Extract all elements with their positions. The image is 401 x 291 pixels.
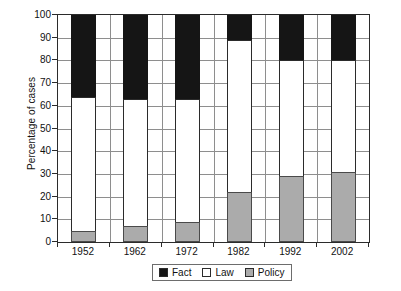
y-tick-mark [52,105,57,106]
y-tick-label: 0 [21,236,51,247]
y-tick-mark [52,218,57,219]
bar-segment-law [123,99,148,226]
chart-legend: Fact Law Policy [152,264,292,281]
x-tick-mark [213,243,214,247]
y-tick-label: 90 [21,31,51,42]
bar-stack [331,15,356,242]
x-tick-label: 2002 [312,246,372,257]
gridline-vertical [162,15,163,242]
bar-segment-policy [175,222,200,242]
bar-segment-law [331,60,356,171]
y-tick-mark [52,59,57,60]
bar-segment-fact [279,15,304,60]
plot-area [57,14,370,243]
bar-segment-fact [331,15,356,60]
bar-segment-policy [331,172,356,242]
legend-label-law: Law [215,267,233,278]
y-tick-mark [52,196,57,197]
chart-figure: Percentage of cases 01020304050607080901… [0,0,401,291]
plot-inner [58,15,369,242]
gridline-vertical [214,15,215,242]
bar-stack [227,15,252,242]
y-tick-mark [52,241,57,242]
x-tick-mark [264,243,265,247]
gridline-vertical [110,15,111,242]
y-tick-mark [52,82,57,83]
y-tick-mark [52,14,57,15]
y-tick-mark [52,37,57,38]
bar-segment-fact [123,15,148,99]
y-tick-label: 30 [21,167,51,178]
bar-segment-policy [227,192,252,242]
gridline-vertical [317,15,318,242]
y-tick-label: 40 [21,145,51,156]
bar-segment-policy [123,226,148,242]
bar-segment-fact [227,15,252,40]
x-tick-mark [161,243,162,247]
y-tick-label: 50 [21,122,51,133]
legend-swatch-law-icon [202,268,211,277]
bar-stack [175,15,200,242]
bar-segment-law [175,99,200,222]
y-tick-mark [52,173,57,174]
legend-swatch-policy-icon [245,268,254,277]
x-tick-mark [57,243,58,247]
bar-segment-policy [279,176,304,242]
gridline-vertical [265,15,266,242]
bar-stack [123,15,148,242]
y-tick-label: 10 [21,213,51,224]
x-tick-mark [316,243,317,247]
x-tick-mark [368,243,369,247]
bar-segment-law [227,40,252,192]
bar-segment-law [71,97,96,231]
y-tick-label: 70 [21,77,51,88]
legend-label-fact: Fact [172,267,191,278]
bar-segment-policy [71,231,96,242]
y-tick-label: 80 [21,54,51,65]
bar-stack [71,15,96,242]
legend-item-fact: Fact [159,267,191,278]
legend-item-law: Law [202,267,233,278]
legend-item-policy: Policy [245,267,285,278]
y-tick-mark [52,150,57,151]
y-tick-label: 60 [21,99,51,110]
y-tick-mark [52,128,57,129]
legend-swatch-fact-icon [159,268,168,277]
x-tick-mark [109,243,110,247]
y-tick-label: 20 [21,190,51,201]
y-tick-label: 100 [21,9,51,20]
bar-segment-fact [71,15,96,97]
bar-segment-law [279,60,304,176]
legend-label-policy: Policy [258,267,285,278]
bar-stack [279,15,304,242]
bar-segment-fact [175,15,200,99]
